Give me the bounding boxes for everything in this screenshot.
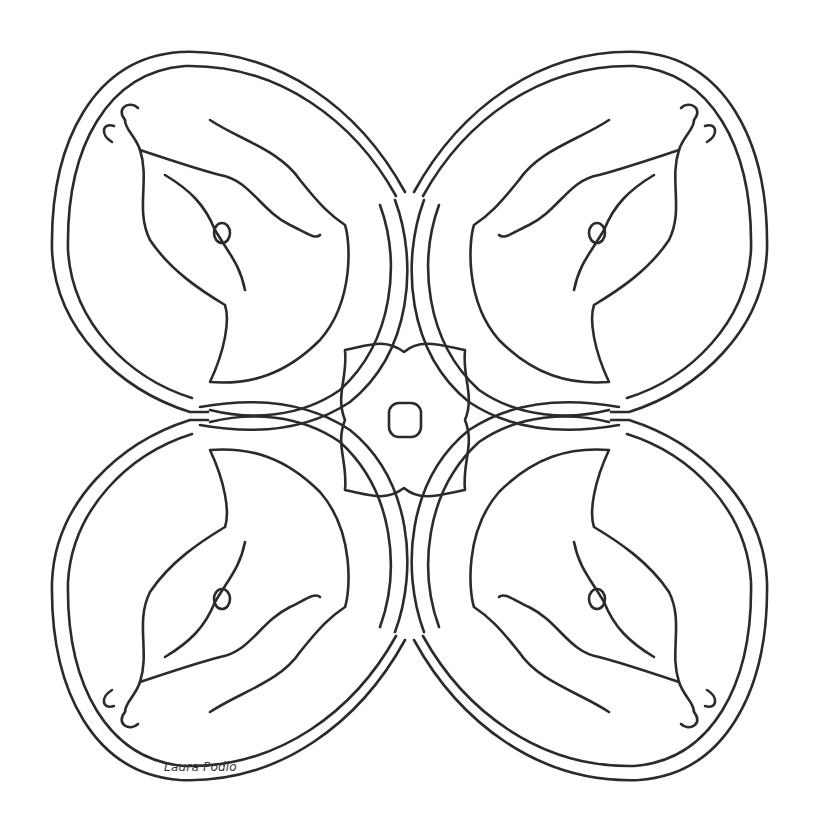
motif-top-left: [52, 52, 407, 430]
center-square: [389, 403, 421, 437]
motif-bottom-left: [52, 402, 407, 780]
artist-signature: Laura Podio: [164, 760, 237, 774]
motif-bottom-right: [412, 402, 767, 780]
mandala-line-art: [0, 0, 819, 832]
